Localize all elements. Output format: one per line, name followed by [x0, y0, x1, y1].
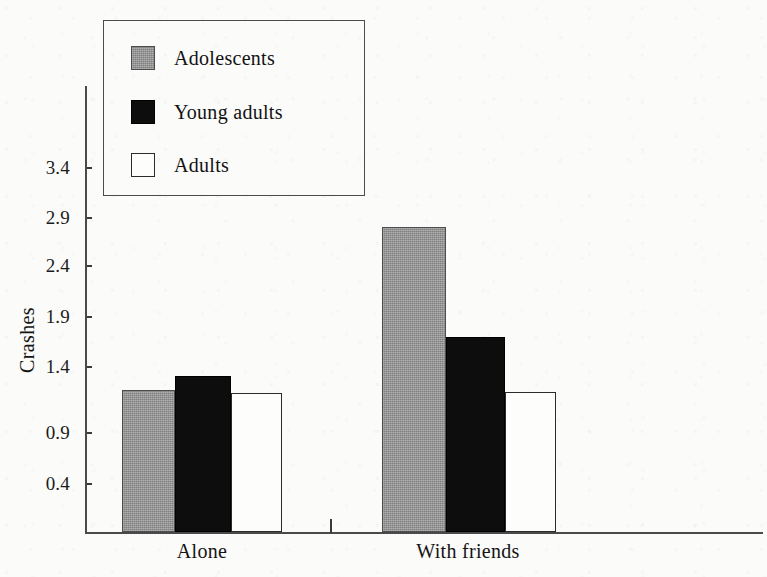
y-tick-label: 2.9	[46, 207, 80, 229]
y-axis-line	[85, 86, 87, 533]
x-axis-group-label-with-friends: With friends	[416, 540, 519, 563]
bar-chart: Crashes 3.4 2.9 2.4 1.9 1.4 0.9 0.4 Alon…	[0, 0, 767, 577]
y-tick-label: 1.9	[46, 306, 80, 328]
y-tick-label: 0.9	[46, 422, 80, 444]
bar-with-friends-adolescents	[382, 227, 446, 533]
bar-with-friends-adults	[505, 392, 556, 532]
y-tick-label: 1.4	[46, 356, 80, 378]
x-axis-line	[85, 532, 763, 534]
white-square-swatch-icon	[131, 153, 155, 177]
x-axis-group-label-alone: Alone	[177, 540, 227, 563]
legend: Adolescents Young adults Adults	[103, 20, 365, 196]
y-tick-label: 0.4	[46, 473, 80, 495]
legend-item-adolescents: Adolescents	[131, 45, 275, 71]
bar-alone-young-adults	[175, 376, 231, 532]
legend-label: Adolescents	[174, 47, 275, 70]
black-square-swatch-icon	[131, 100, 155, 124]
legend-item-young-adults: Young adults	[131, 99, 283, 125]
bar-with-friends-young-adults	[446, 337, 505, 532]
y-tick-label: 2.4	[46, 255, 80, 277]
legend-label: Adults	[174, 154, 229, 177]
legend-item-adults: Adults	[131, 152, 229, 178]
grey-square-swatch-icon	[131, 46, 155, 70]
bar-alone-adolescents	[122, 390, 175, 532]
legend-label: Young adults	[174, 101, 283, 124]
bar-alone-adults	[231, 393, 282, 532]
x-axis-group-separator-tick	[330, 519, 332, 533]
y-tick-label: 3.4	[46, 157, 80, 179]
y-axis-title: Crashes	[16, 307, 39, 373]
